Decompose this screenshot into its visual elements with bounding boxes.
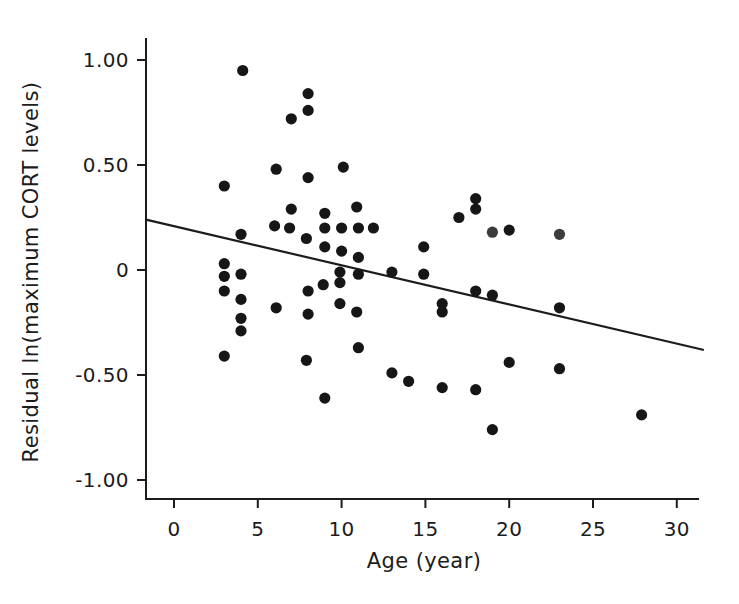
data-point xyxy=(286,204,297,215)
data-point xyxy=(353,222,364,233)
x-tick-label: 30 xyxy=(664,517,690,541)
data-point xyxy=(386,267,397,278)
data-point xyxy=(269,220,280,231)
data-point xyxy=(219,351,230,362)
data-point xyxy=(487,227,498,238)
data-point xyxy=(284,222,295,233)
y-tick-label: -1.00 xyxy=(75,468,129,492)
data-point xyxy=(334,298,345,309)
data-point xyxy=(271,302,282,313)
data-point xyxy=(235,229,246,240)
data-point xyxy=(386,367,397,378)
data-point xyxy=(336,246,347,257)
data-point xyxy=(319,393,330,404)
data-point xyxy=(303,172,314,183)
axes-layer: 1.000.500-0.50-1.00051015202530 xyxy=(75,38,699,541)
data-point xyxy=(303,88,314,99)
data-point xyxy=(334,267,345,278)
data-point xyxy=(219,258,230,269)
data-point xyxy=(353,269,364,280)
x-tick-label: 5 xyxy=(251,517,264,541)
x-tick-label: 15 xyxy=(412,517,438,541)
y-tick-label: 1.00 xyxy=(83,48,129,72)
data-point xyxy=(470,384,481,395)
points-layer xyxy=(219,65,648,435)
data-point xyxy=(504,357,515,368)
data-point xyxy=(554,363,565,374)
data-point xyxy=(219,180,230,191)
y-tick-label: -0.50 xyxy=(75,363,129,387)
data-point xyxy=(303,285,314,296)
data-point xyxy=(237,65,248,76)
data-point xyxy=(487,424,498,435)
y-tick-label: 0 xyxy=(116,258,129,282)
x-tick-label: 25 xyxy=(580,517,606,541)
data-point xyxy=(554,302,565,313)
x-tick-label: 20 xyxy=(496,517,522,541)
data-point xyxy=(319,208,330,219)
data-point xyxy=(353,342,364,353)
data-point xyxy=(235,325,246,336)
data-point xyxy=(301,355,312,366)
data-point xyxy=(368,222,379,233)
data-point xyxy=(453,212,464,223)
data-point xyxy=(301,233,312,244)
data-point xyxy=(504,225,515,236)
trend-line xyxy=(146,220,703,350)
data-point xyxy=(418,241,429,252)
data-point xyxy=(334,277,345,288)
data-point xyxy=(470,285,481,296)
data-point xyxy=(318,279,329,290)
data-point xyxy=(470,193,481,204)
data-point xyxy=(336,222,347,233)
data-point xyxy=(403,376,414,387)
data-point xyxy=(235,269,246,280)
x-tick-label: 10 xyxy=(328,517,354,541)
x-axis-title: Age (year) xyxy=(367,549,482,573)
data-point xyxy=(235,313,246,324)
data-point xyxy=(303,309,314,320)
data-point xyxy=(351,306,362,317)
data-point xyxy=(319,222,330,233)
data-point xyxy=(437,382,448,393)
data-point xyxy=(470,204,481,215)
data-point xyxy=(271,164,282,175)
y-tick-label: 0.50 xyxy=(83,153,129,177)
y-axis-title: Residual ln(maximum CORT levels) xyxy=(19,82,43,463)
data-point xyxy=(353,252,364,263)
scatter-figure: 1.000.500-0.50-1.00051015202530 Age (yea… xyxy=(0,0,739,604)
data-point xyxy=(338,162,349,173)
data-point xyxy=(437,306,448,317)
trend-layer xyxy=(146,220,703,350)
data-point xyxy=(219,285,230,296)
data-point xyxy=(319,241,330,252)
x-tick-label: 0 xyxy=(167,517,180,541)
data-point xyxy=(636,409,647,420)
data-point xyxy=(554,229,565,240)
data-point xyxy=(487,290,498,301)
data-point xyxy=(418,269,429,280)
data-point xyxy=(303,105,314,116)
data-point xyxy=(219,271,230,282)
data-point xyxy=(235,294,246,305)
data-point xyxy=(351,201,362,212)
scatter-plot: 1.000.500-0.50-1.00051015202530 Age (yea… xyxy=(0,0,739,604)
data-point xyxy=(286,113,297,124)
